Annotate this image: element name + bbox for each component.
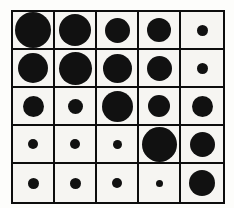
dot-r2c5 xyxy=(197,63,208,74)
grid-cell-r3c3 xyxy=(97,88,139,126)
grid-cell-r5c1 xyxy=(13,164,55,202)
dot-r4c4 xyxy=(142,127,177,162)
grid-cell-r5c5 xyxy=(181,164,223,202)
dot-r2c4 xyxy=(147,56,172,81)
grid-cell-r2c2 xyxy=(55,50,97,88)
grid-cell-r4c3 xyxy=(97,126,139,164)
dot-r4c1 xyxy=(28,139,38,149)
grid-cell-r3c4 xyxy=(139,88,181,126)
grid-cell-r1c1 xyxy=(13,12,55,50)
dot-r1c5 xyxy=(197,25,208,36)
dot-r2c1 xyxy=(18,53,48,83)
dot-r3c5 xyxy=(192,96,213,117)
grid-cell-r4c5 xyxy=(181,126,223,164)
dot-r2c3 xyxy=(103,54,132,83)
dot-r5c2 xyxy=(70,178,81,189)
dot-r5c4 xyxy=(156,180,163,187)
figure-canvas xyxy=(0,0,234,208)
dot-r3c2 xyxy=(68,99,83,114)
grid-cell-r5c2 xyxy=(55,164,97,202)
grid-cell-r3c2 xyxy=(55,88,97,126)
grid-cell-r5c4 xyxy=(139,164,181,202)
dot-r2c2 xyxy=(59,52,92,85)
grid-cell-r5c3 xyxy=(97,164,139,202)
grid-cell-r2c3 xyxy=(97,50,139,88)
dot-r3c4 xyxy=(148,95,170,117)
grid-cell-r2c5 xyxy=(181,50,223,88)
dot-r1c4 xyxy=(147,18,171,42)
dot-r3c3 xyxy=(102,91,133,122)
grid-cell-r1c5 xyxy=(181,12,223,50)
grid-cell-r2c1 xyxy=(13,50,55,88)
dot-r5c5 xyxy=(189,170,215,196)
dot-r4c5 xyxy=(190,132,215,157)
bubble-matrix-grid xyxy=(11,10,225,204)
dot-r1c2 xyxy=(59,14,91,46)
dot-r5c1 xyxy=(28,178,39,189)
dot-r4c3 xyxy=(113,140,122,149)
dot-r1c3 xyxy=(105,18,130,43)
grid-cell-r1c3 xyxy=(97,12,139,50)
dot-r4c2 xyxy=(70,139,80,149)
grid-cell-r1c4 xyxy=(139,12,181,50)
grid-cell-r2c4 xyxy=(139,50,181,88)
dot-r5c3 xyxy=(112,178,122,188)
grid-cell-r4c1 xyxy=(13,126,55,164)
grid-cell-r4c2 xyxy=(55,126,97,164)
grid-cell-r4c4 xyxy=(139,126,181,164)
dot-r3c1 xyxy=(23,96,44,117)
grid-cell-r3c1 xyxy=(13,88,55,126)
grid-cell-r1c2 xyxy=(55,12,97,50)
dot-r1c1 xyxy=(15,12,51,48)
grid-cell-r3c5 xyxy=(181,88,223,126)
